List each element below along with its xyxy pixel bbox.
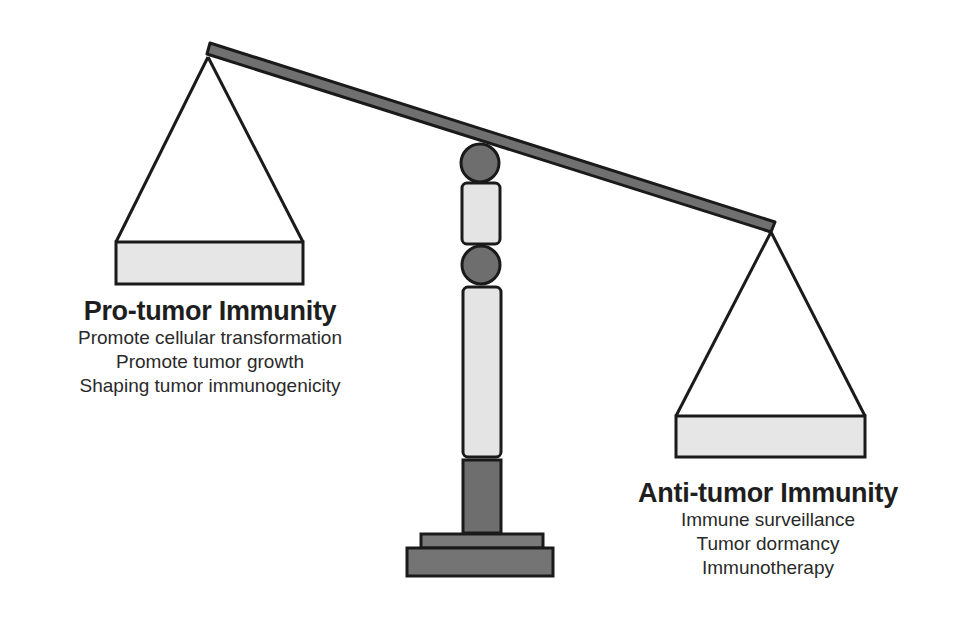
anti-tumor-label: Anti-tumor Immunity Immune surveillance … <box>605 478 931 580</box>
left-pan-tray <box>116 242 303 284</box>
left-pan-string-right <box>208 57 303 242</box>
right-pan-string-left <box>676 232 771 416</box>
pro-tumor-item: Promote tumor growth <box>18 350 402 374</box>
column-foot <box>463 460 501 533</box>
pro-tumor-title: Pro-tumor Immunity <box>18 296 402 326</box>
right-pan <box>676 232 865 457</box>
left-pan-string-left <box>116 57 208 242</box>
pro-tumor-item: Shaping tumor immunogenicity <box>18 374 402 398</box>
column-knob-top <box>461 144 499 182</box>
column-segment-lower <box>463 287 501 457</box>
base-upper <box>421 534 543 548</box>
anti-tumor-title: Anti-tumor Immunity <box>605 478 931 508</box>
anti-tumor-item: Tumor dormancy <box>605 532 931 556</box>
column-segment-upper <box>462 183 500 244</box>
right-pan-string-right <box>771 232 865 416</box>
right-pan-tray <box>676 416 865 457</box>
base-lower <box>407 548 553 576</box>
scale-column <box>407 144 553 576</box>
left-pan <box>116 57 303 284</box>
pro-tumor-label: Pro-tumor Immunity Promote cellular tran… <box>18 296 402 398</box>
column-knob-middle <box>462 246 500 284</box>
pro-tumor-item: Promote cellular transformation <box>18 326 402 350</box>
anti-tumor-item: Immune surveillance <box>605 508 931 532</box>
anti-tumor-item: Immunotherapy <box>605 556 931 580</box>
